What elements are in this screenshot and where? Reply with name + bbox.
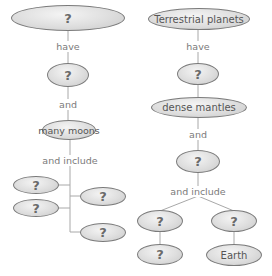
left-branch-node-3: ? [80,187,126,206]
right-link-and: and [188,129,208,140]
left-node-2: ? [47,63,89,87]
right-link-and-include: and include [169,186,226,197]
left-node-many-moons: many moons [42,120,96,140]
right-top-node-terrestrial-planets: Terrestrial planets [148,8,250,30]
right-node-4: ? [176,150,220,173]
right-branch-right-node-1: ? [211,210,257,232]
right-link-have: have [185,41,210,52]
left-link-and: and [58,99,78,110]
left-top-node: ? [11,5,125,31]
right-node-dense-mantles: dense mantles [151,97,247,118]
right-branch-node-earth: Earth [206,244,262,266]
left-link-and-include: and include [41,155,98,166]
left-branch-node-1: ? [13,176,59,194]
left-branch-node-2: ? [13,199,59,217]
left-link-have: have [55,41,80,52]
right-node-2: ? [177,63,219,85]
right-branch-left-node-2: ? [137,244,183,265]
connector-lines [0,0,272,276]
left-branch-node-4: ? [80,223,126,242]
right-branch-left-node-1: ? [137,210,183,232]
